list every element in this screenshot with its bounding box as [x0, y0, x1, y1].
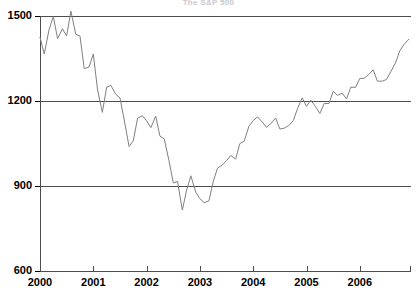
axis-ticks — [35, 17, 411, 272]
y-axis-tick-label: 600 — [0, 265, 32, 276]
x-axis-tick-label: 2001 — [73, 277, 113, 288]
x-axis-tick-label: 2004 — [233, 277, 273, 288]
chart-container: The S&P 500 60090012001500 2000200120022… — [0, 0, 417, 294]
x-axis-tick-label: 2000 — [20, 277, 60, 288]
gridlines — [40, 17, 411, 272]
x-axis-tick-label: 2005 — [287, 277, 327, 288]
x-axis-tick-label: 2003 — [180, 277, 220, 288]
chart-plot-area — [0, 0, 417, 294]
data-series-line — [40, 11, 409, 210]
x-axis-tick-label: 2002 — [127, 277, 167, 288]
x-axis-tick-label: 2006 — [340, 277, 380, 288]
y-axis-tick-label: 1200 — [0, 95, 32, 106]
y-axis-tick-label: 900 — [0, 180, 32, 191]
y-axis-tick-label: 1500 — [0, 10, 32, 21]
